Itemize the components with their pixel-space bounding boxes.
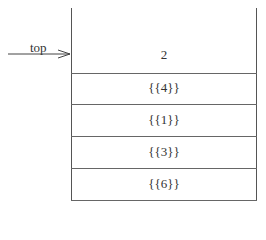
stack-cell-top: 2 — [71, 47, 257, 63]
divider — [71, 136, 257, 137]
top-pointer-arrow-icon — [8, 49, 72, 59]
divider — [71, 104, 257, 105]
stack-cell: {{1}} — [71, 112, 257, 128]
stack-bottom — [71, 200, 257, 201]
stack-cell: {{4}} — [71, 80, 257, 96]
divider — [71, 168, 257, 169]
stack-cell: {{6}} — [71, 176, 257, 192]
divider — [71, 73, 257, 74]
stack-cell: {{3}} — [71, 144, 257, 160]
